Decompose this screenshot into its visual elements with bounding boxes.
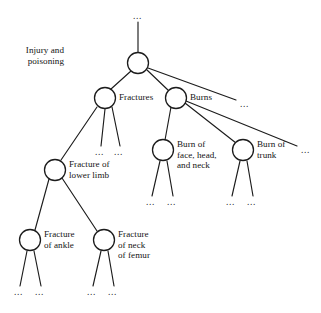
tree-edge <box>112 107 120 146</box>
tree-edge <box>165 107 171 140</box>
node-label-burn-trunk: Burn of trunk <box>257 139 285 160</box>
tree-edge <box>20 251 27 286</box>
tree-node-fractures[interactable] <box>95 88 116 109</box>
ellipsis-ank-ellipsis-1: ... <box>14 288 23 296</box>
tree-edge <box>247 161 253 196</box>
ellipsis-bf-ellipsis-2: ... <box>167 198 176 206</box>
tree-edge <box>108 251 114 286</box>
tree-node-burn-face[interactable] <box>153 140 174 161</box>
ellipsis-burns-ellipsis-right: ... <box>301 146 310 154</box>
tree-edge <box>147 70 169 91</box>
node-label-burn-face: Burn of face, head, and neck <box>177 139 217 171</box>
ellipsis-root-ellipsis-right: ... <box>240 100 249 108</box>
ellipsis-bt-ellipsis-2: ... <box>247 198 256 206</box>
tree-node-burns[interactable] <box>166 88 187 109</box>
node-label-burns: Burns <box>190 92 212 103</box>
tree-node-burn-trunk[interactable] <box>233 140 254 161</box>
tree-edge <box>111 71 131 89</box>
tree-edge <box>93 251 101 286</box>
node-label-fractures: Fractures <box>119 92 153 103</box>
ellipsis-ank-ellipsis-2: ... <box>35 288 44 296</box>
ellipsis-fem-ellipsis-1: ... <box>87 288 96 296</box>
tree-edge <box>167 161 173 196</box>
tree-node-ankle[interactable] <box>20 230 41 251</box>
tree-node-lower-limb[interactable] <box>45 160 66 181</box>
nodes-group <box>20 53 254 251</box>
tree-edge <box>232 161 240 196</box>
ellipsis-bt-ellipsis-1: ... <box>226 198 235 206</box>
ellipsis-frac-ellipsis-1: ... <box>95 148 104 156</box>
tree-edge <box>101 109 105 146</box>
tree-node-femur[interactable] <box>94 230 115 251</box>
ellipsis-fem-ellipsis-2: ... <box>108 288 117 296</box>
tree-edge <box>61 107 97 160</box>
tree-edge <box>34 251 41 286</box>
node-label-lower-limb: Fracture of lower limb <box>69 159 110 180</box>
tree-edge <box>62 178 97 231</box>
tree-node-root[interactable] <box>128 53 149 74</box>
tree-diagram: Injury and poisoningFracturesBurnsFractu… <box>0 0 321 313</box>
ellipsis-bf-ellipsis-1: ... <box>146 198 155 206</box>
node-label-root: Injury and poisoning <box>26 45 64 66</box>
ellipsis-above-root-ellipsis: ... <box>133 12 142 20</box>
node-label-femur: Fracture of neck of femur <box>118 229 150 261</box>
ellipsis-frac-ellipsis-2: ... <box>114 148 123 156</box>
tree-edge <box>185 103 236 143</box>
tree-edge <box>35 179 49 230</box>
tree-edge <box>152 161 160 196</box>
node-label-ankle: Fracture of ankle <box>44 229 75 250</box>
